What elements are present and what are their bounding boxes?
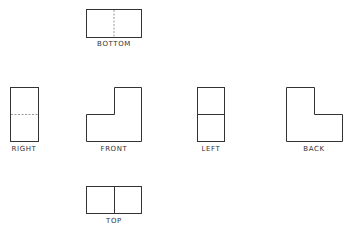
front-view <box>87 88 142 142</box>
bottom-view <box>87 10 142 38</box>
top-view <box>87 187 142 214</box>
back-view <box>287 88 343 142</box>
top-label: TOP <box>74 217 154 225</box>
orthographic-views-diagram <box>0 0 354 234</box>
left-view <box>198 88 225 142</box>
front-label: FRONT <box>74 145 154 153</box>
back-label: BACK <box>274 145 354 153</box>
right-label: RIGHT <box>0 145 64 153</box>
right-view <box>11 88 39 142</box>
bottom-label: BOTTOM <box>74 40 154 48</box>
left-label: LEFT <box>171 145 251 153</box>
